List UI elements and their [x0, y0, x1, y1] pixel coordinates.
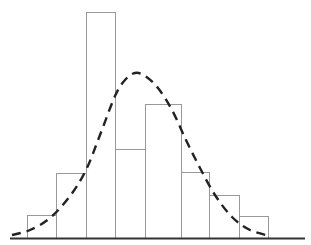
histogram-bar — [57, 174, 87, 239]
histogram-bar — [210, 196, 240, 239]
histogram-bar — [116, 150, 146, 239]
histogram-bar — [87, 13, 116, 239]
histogram-bar — [28, 216, 57, 239]
histogram-chart — [0, 0, 311, 245]
histogram-bar — [146, 105, 182, 239]
histogram-bar — [182, 173, 210, 239]
